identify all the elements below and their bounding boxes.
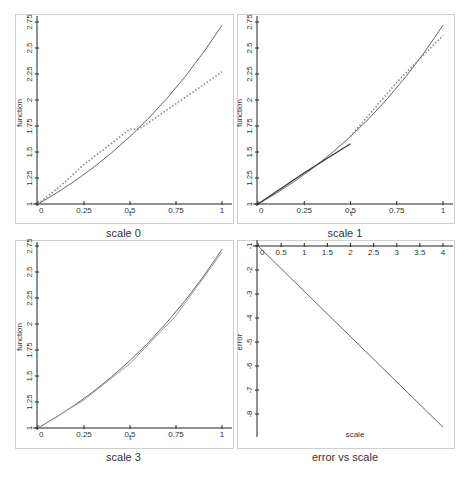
chart-caption: error vs scale: [237, 451, 453, 463]
x-tick-label: 2: [348, 248, 353, 257]
y-tick-label: -1: [245, 242, 254, 250]
y-tick-label: -2: [245, 266, 254, 274]
series-line: [258, 246, 443, 427]
x-tick-label: 3: [395, 248, 400, 257]
y-tick-label: -8: [245, 410, 254, 418]
x-tick-label: 4: [441, 248, 446, 257]
x-tick-label: 3.5: [414, 248, 426, 257]
y-tick-label: -3: [245, 290, 254, 298]
x-tick-label: 1: [302, 248, 307, 257]
y-tick-label: -4: [245, 314, 254, 322]
axes: 00.511.522.533.54-1-2-3-4-5-6-7-8scaleer…: [235, 240, 453, 439]
y-tick-label: -7: [245, 386, 254, 394]
y-axis-label: error: [235, 333, 244, 350]
x-tick-label: 0.5: [276, 248, 288, 257]
x-tick-label: 2.5: [368, 248, 380, 257]
y-tick-label: -5: [245, 338, 254, 346]
plot-error: 00.511.522.533.54-1-2-3-4-5-6-7-8scaleer…: [0, 0, 467, 478]
x-tick-label: 1.5: [322, 248, 334, 257]
x-axis-label: scale: [346, 430, 365, 439]
y-tick-label: -6: [245, 362, 254, 370]
